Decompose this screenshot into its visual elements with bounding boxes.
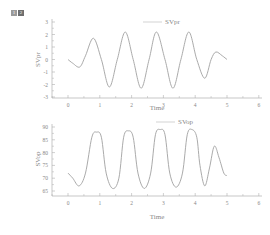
x-tick-label: 3: [162, 200, 165, 206]
y-tick-label: 80: [43, 150, 49, 156]
x-tick-label: 0: [67, 102, 70, 108]
y-tick-label: -2: [43, 82, 48, 88]
y-tick-label: 65: [43, 188, 49, 194]
x-tick-label: 4: [194, 200, 197, 206]
y-tick-label: 75: [43, 162, 49, 168]
x-tick-label: 2: [130, 102, 133, 108]
x-axis-label: Time: [150, 213, 165, 221]
y-axis-label: SVop: [34, 151, 42, 167]
chart-svop: 9085807570650123456TimeSVopSVop: [34, 118, 262, 221]
y-tick-label: -3: [43, 94, 48, 100]
x-tick-label: 5: [226, 102, 229, 108]
legend-label: SVpr: [165, 18, 180, 26]
x-tick-label: 6: [257, 102, 260, 108]
y-tick-label: 3: [45, 19, 48, 25]
y-tick-label: -1: [43, 69, 48, 75]
x-axis-label: Time: [150, 104, 165, 112]
chart-svpr: 3210-1-2-30123456TimeSVprSVpr: [34, 18, 262, 112]
y-tick-label: 85: [43, 137, 49, 143]
series-line: [68, 32, 227, 88]
y-axis-label: SVpr: [34, 51, 42, 66]
x-tick-label: 5: [226, 200, 229, 206]
series-line: [68, 129, 227, 189]
y-tick-label: 90: [43, 124, 49, 130]
y-tick-label: 70: [43, 175, 49, 181]
x-tick-label: 6: [257, 200, 260, 206]
x-tick-label: 0: [67, 200, 70, 206]
y-tick-label: 0: [45, 57, 48, 63]
x-tick-label: 1: [98, 102, 101, 108]
legend-label: SVop: [178, 118, 194, 126]
x-tick-label: 2: [130, 200, 133, 206]
x-tick-label: 1: [98, 200, 101, 206]
x-tick-label: 4: [194, 102, 197, 108]
y-tick-label: 1: [45, 44, 48, 50]
charts-container: 3210-1-2-30123456TimeSVprSVpr 9085807570…: [0, 0, 270, 235]
y-tick-label: 2: [45, 32, 48, 38]
